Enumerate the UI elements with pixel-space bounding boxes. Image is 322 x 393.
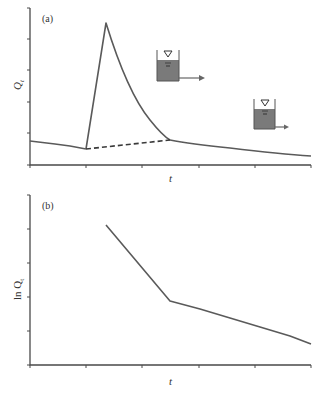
panel-a-recession-line xyxy=(170,140,311,156)
panel-a-y-label-sub: t xyxy=(18,79,26,82)
panel-b-x-label: t xyxy=(169,375,173,387)
tank-icon-low xyxy=(254,99,289,130)
panel-b-log-recession-line xyxy=(106,225,311,344)
panel-a-label: (a) xyxy=(42,13,53,25)
figure: (a) Qt t xyxy=(0,0,322,393)
panel-b-axes xyxy=(30,195,311,365)
panel-b-label: (b) xyxy=(42,200,54,212)
panel-a-y-label: Qt xyxy=(11,79,26,90)
tank-water xyxy=(254,109,275,129)
water-level-triangle-icon xyxy=(164,51,172,57)
panel-a-baseflow-separation xyxy=(86,140,170,149)
panel-a-x-label: t xyxy=(169,172,173,184)
panel-b: (b) ln Qt t xyxy=(11,195,311,387)
water-level-triangle-icon xyxy=(261,100,269,106)
panel-b-y-label-main: ln Q xyxy=(11,281,23,300)
panel-a-axes xyxy=(30,8,311,165)
panel-b-y-label-sub: t xyxy=(18,279,26,281)
panel-a-y-label-main: Q xyxy=(11,82,23,90)
panel-a: (a) Qt t xyxy=(11,8,311,184)
panel-a-baseflow-pre-line xyxy=(30,141,86,149)
panel-b-y-label: ln Qt xyxy=(11,279,26,300)
tank-icon-high xyxy=(157,50,205,81)
panel-a-event-hydrograph xyxy=(86,23,170,149)
